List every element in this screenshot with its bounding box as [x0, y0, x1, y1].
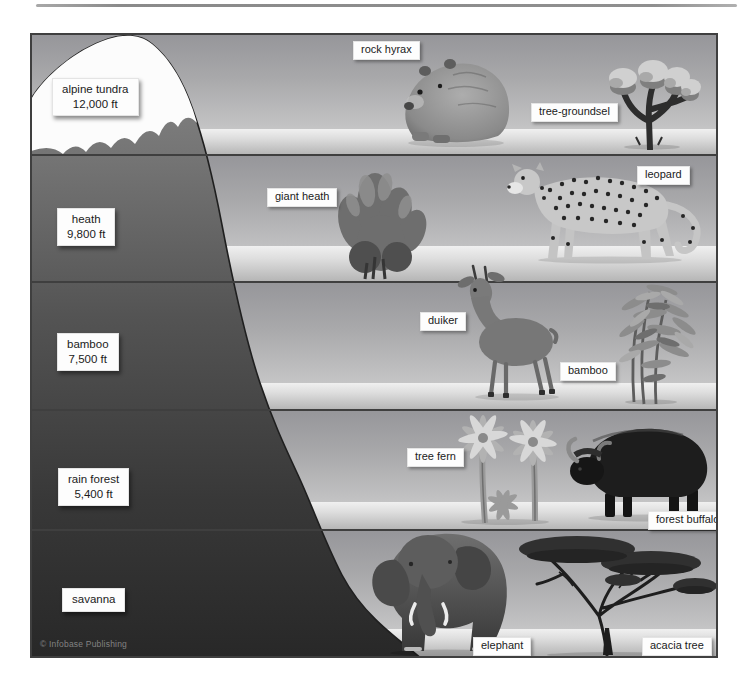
bamboo-illustration [596, 266, 711, 406]
species-tag-giant-heath: giant heath [267, 188, 337, 207]
species-tag-tree-fern: tree fern [407, 448, 464, 467]
zone-name: alpine tundra [62, 82, 129, 97]
zone-label-rain-forest: rain forest 5,400 ft [58, 468, 129, 506]
zone-name: savanna [72, 592, 115, 607]
zone-label-heath: heath 9,800 ft [57, 208, 115, 246]
zone-altitude: 5,400 ft [68, 487, 119, 502]
species-tag-elephant: elephant [473, 637, 531, 656]
zone-label-bamboo: bamboo 7,500 ft [57, 333, 119, 371]
zone-label-alpine-tundra: alpine tundra 12,000 ft [52, 78, 139, 116]
zone-altitude: 12,000 ft [62, 97, 129, 112]
zone-altitude: 7,500 ft [67, 352, 109, 367]
zone-name: bamboo [67, 337, 109, 352]
copyright-notice: © Infobase Publishing [40, 639, 127, 649]
elephant-illustration [366, 510, 516, 657]
zone-altitude: 9,800 ft [67, 227, 105, 242]
mountain-zonation-diagram: alpine tundra 12,000 ft heath 9,800 ft b… [30, 33, 718, 658]
giant-heath-illustration [323, 157, 440, 281]
species-tag-forest-buffalo: forest buffalo [648, 511, 718, 530]
top-horizontal-rule [36, 4, 737, 7]
zone-label-savanna: savanna [62, 588, 125, 612]
species-tag-bamboo: bamboo [560, 362, 616, 381]
tree-groundsel-illustration [596, 45, 708, 150]
diagram-stage: alpine tundra 12,000 ft heath 9,800 ft b… [32, 35, 716, 656]
forest-buffalo-illustration [563, 411, 715, 523]
species-tag-tree-groundsel: tree-groundsel [531, 103, 618, 122]
zone-name: rain forest [68, 472, 119, 487]
zone-name: heath [67, 212, 105, 227]
rock-hyrax-illustration [398, 55, 513, 148]
duiker-illustration [443, 264, 563, 402]
species-tag-acacia-tree: acacia tree [642, 637, 712, 656]
species-tag-rock-hyrax: rock hyrax [353, 41, 420, 60]
species-tag-duiker: duiker [420, 312, 466, 331]
species-tag-leopard: leopard [637, 166, 690, 185]
